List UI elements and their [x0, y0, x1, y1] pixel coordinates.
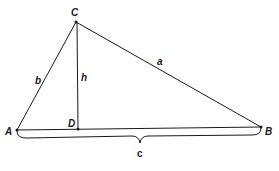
side-a	[76, 22, 261, 127]
label-side-b: b	[35, 75, 41, 86]
label-altitude-h: h	[81, 72, 87, 83]
vertex-c-dot	[75, 21, 78, 24]
side-c	[17, 127, 261, 130]
label-foot-d: D	[68, 118, 75, 129]
side-b	[17, 22, 76, 130]
label-vertex-c: C	[71, 7, 79, 18]
label-side-c: c	[137, 148, 143, 159]
altitude-h	[77, 22, 78, 129]
brace-c	[17, 128, 261, 143]
foot-d-dot	[77, 128, 80, 131]
triangle-diagram: C b h a A D B c	[0, 0, 279, 171]
label-side-a: a	[157, 56, 163, 67]
label-vertex-a: A	[4, 126, 12, 137]
label-vertex-b: B	[265, 126, 272, 137]
